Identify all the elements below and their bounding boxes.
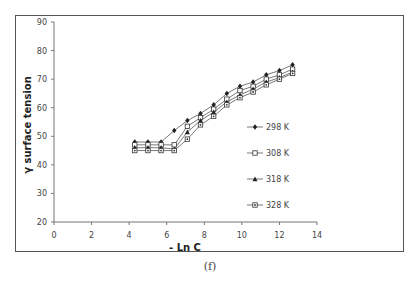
x-tick-label: 8 xyxy=(202,231,207,240)
data-point-marker xyxy=(225,91,229,97)
legend-marker-icon-dot xyxy=(254,204,256,206)
x-tick-label: 4 xyxy=(127,231,132,240)
y-tick-label: 70 xyxy=(37,75,47,84)
data-point-marker-dot xyxy=(200,124,202,126)
x-tick-label: 14 xyxy=(312,231,322,240)
data-point-marker-dot xyxy=(252,91,254,93)
data-point-marker-dot xyxy=(265,84,267,86)
data-point-marker-dot xyxy=(186,138,188,140)
x-tick-label: 6 xyxy=(164,231,169,240)
data-point-marker-dot xyxy=(226,104,228,106)
y-tick-label: 30 xyxy=(37,189,47,198)
y-tick-label: 50 xyxy=(37,132,47,141)
data-point-marker xyxy=(185,118,189,124)
y-axis-label: γ surface tension xyxy=(22,76,33,174)
legend-marker-icon xyxy=(253,151,257,155)
legend-label: 298 K xyxy=(266,123,290,132)
data-point-marker-dot xyxy=(213,115,215,117)
x-tick-label: 10 xyxy=(237,231,247,240)
y-tick-label: 80 xyxy=(37,47,47,56)
y-tick-label: 60 xyxy=(37,104,47,113)
data-point-marker-dot xyxy=(239,97,241,99)
x-tick-label: 0 xyxy=(51,231,56,240)
x-tick-label: 2 xyxy=(89,231,94,240)
data-point-marker-dot xyxy=(160,150,162,152)
data-point-marker xyxy=(172,143,176,147)
data-point-marker-dot xyxy=(147,150,149,152)
data-point-marker-dot xyxy=(292,73,294,75)
y-tick-label: 90 xyxy=(37,18,47,27)
y-tick-label: 40 xyxy=(37,161,47,170)
legend-label: 328 K xyxy=(266,201,290,210)
data-point-marker xyxy=(172,128,176,134)
figure-caption: (f) xyxy=(0,260,420,273)
data-point-marker-dot xyxy=(134,150,136,152)
line-chart: 024681012142030405060708090- Ln Cγ surfa… xyxy=(0,0,420,285)
x-axis-label: - Ln C xyxy=(169,242,201,253)
data-point-marker xyxy=(185,124,189,128)
y-tick-label: 20 xyxy=(37,218,47,227)
data-point-marker-dot xyxy=(279,78,281,80)
data-point-marker xyxy=(238,88,242,92)
legend-label: 318 K xyxy=(266,175,290,184)
data-point-marker-dot xyxy=(173,150,175,152)
legend-marker-icon xyxy=(253,124,257,130)
legend-label: 308 K xyxy=(266,149,290,158)
x-tick-label: 12 xyxy=(274,231,284,240)
